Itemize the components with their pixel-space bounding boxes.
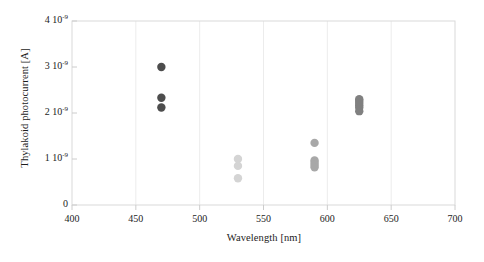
chart-figure: Thylakoid photocurrent [A] 4 10-93 10-92… — [0, 0, 484, 262]
x-axis-tick-labels: 400450500550600650700 — [0, 0, 484, 262]
x-axis-tick-label: 650 — [371, 213, 411, 224]
x-axis-tick-label: 600 — [307, 213, 347, 224]
x-axis-tick-label: 500 — [180, 213, 220, 224]
x-axis-label: Wavelength [nm] — [72, 232, 456, 243]
x-axis-tick-label: 450 — [116, 213, 156, 224]
x-axis-tick-label: 400 — [52, 213, 92, 224]
x-axis-tick-label: 550 — [244, 213, 284, 224]
x-axis-tick-label: 700 — [435, 213, 475, 224]
